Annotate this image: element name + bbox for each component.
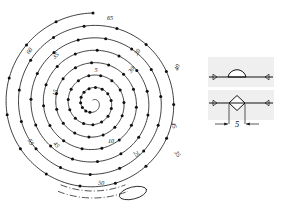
spiral-point-marker xyxy=(150,68,153,71)
spiral-point-marker xyxy=(79,101,82,104)
spiral-point-marker xyxy=(96,160,99,163)
spiral-point-marker xyxy=(88,87,91,90)
spiral-point-marker xyxy=(48,124,51,127)
spiral-point-marker xyxy=(144,165,147,168)
zone-label: 20 xyxy=(132,47,142,57)
spiral-point-marker xyxy=(88,111,91,114)
spiral-point-marker xyxy=(137,136,140,139)
spiral-point-marker xyxy=(45,83,48,86)
spiral-point-marker xyxy=(110,99,113,102)
spiral-point-marker xyxy=(100,120,103,123)
spiral-point-marker xyxy=(130,124,133,127)
zone-label: 50 xyxy=(98,179,106,186)
spiral-point-marker xyxy=(119,89,122,92)
spiral-point-marker xyxy=(6,113,9,116)
spiral-point-marker xyxy=(165,70,168,73)
spiral-point-marker xyxy=(29,98,32,101)
spiral-point-marker xyxy=(146,90,149,93)
zone-label: 10 xyxy=(108,137,115,144)
bottom-dashdot-arc xyxy=(61,185,126,191)
bottom-dashdot-arc xyxy=(58,191,128,198)
spiral-point-marker xyxy=(121,114,124,117)
spiral-point-marker xyxy=(90,61,93,64)
spiral-point-marker xyxy=(118,167,121,170)
spiral-point-marker xyxy=(45,172,48,175)
spiral-point-marker xyxy=(89,173,92,176)
spiral-point-marker xyxy=(146,114,149,117)
zone-label: 30 xyxy=(126,64,136,75)
spiral-point-marker xyxy=(78,185,81,188)
spiral-point-marker xyxy=(165,137,168,140)
spiral-point-marker xyxy=(71,158,74,161)
spiral-point-marker xyxy=(42,104,45,107)
zone-label: 65 xyxy=(107,14,113,21)
spiral-point-marker xyxy=(73,132,76,135)
spiral-point-marker xyxy=(92,12,95,15)
spiral-point-marker xyxy=(83,25,86,28)
spiral-point-marker xyxy=(135,106,138,109)
zone-label: 55 xyxy=(27,137,36,146)
spiral-point-marker xyxy=(35,147,38,150)
spiral-point-marker xyxy=(29,59,32,62)
spiral-point-marker xyxy=(159,95,162,98)
spiral-point-marker xyxy=(132,88,135,91)
spiral-point-marker xyxy=(18,88,21,91)
spiral-point-marker xyxy=(113,126,116,129)
spiral-point-marker xyxy=(87,136,90,139)
zone-label: 5 xyxy=(94,66,97,73)
spiral-point-marker xyxy=(107,115,110,118)
zone-label: 35 xyxy=(173,148,183,158)
spiral-point-marker xyxy=(77,79,80,82)
spiral-point-marker xyxy=(34,124,37,127)
spiral-point-marker xyxy=(81,106,84,109)
spiral-point-marker xyxy=(8,76,11,79)
spiral-point-marker xyxy=(83,91,86,94)
spiral-point-marker xyxy=(114,182,117,185)
spiral-point-marker xyxy=(99,74,102,77)
spiral-point-marker xyxy=(20,120,23,123)
spiral-point-marker xyxy=(96,49,99,52)
spiral-point-marker xyxy=(62,122,65,125)
spiral-point-marker xyxy=(118,55,121,58)
spiral-point-marker xyxy=(82,122,85,125)
spiral-point-marker xyxy=(110,79,113,82)
zone-label: 45 xyxy=(170,121,179,129)
spiral-point-marker xyxy=(62,139,65,142)
spiral-point-marker xyxy=(100,147,103,150)
spiral-point-marker xyxy=(49,145,52,148)
spiral-point-marker xyxy=(104,37,107,40)
spiral-point-marker xyxy=(55,108,58,111)
spiral-point-marker xyxy=(36,72,39,75)
zone-label: 60 xyxy=(24,45,34,55)
spiral-point-marker xyxy=(52,36,55,39)
spiral-point-marker xyxy=(135,69,138,72)
spiral-point-marker xyxy=(119,152,122,155)
technical-drawing-figure: 51015202530354045505560654535 5 xyxy=(0,0,281,216)
spiral-point-marker xyxy=(70,88,73,91)
spiral-point-marker xyxy=(94,86,97,89)
inset-panel-dome xyxy=(208,57,274,87)
spiral-point-marker xyxy=(74,53,77,56)
spiral-point-marker xyxy=(106,92,109,95)
spiral-point-marker xyxy=(122,101,125,104)
spiral-point-marker xyxy=(19,147,22,150)
spiral-point-marker xyxy=(62,77,65,80)
inset-panel-diamond: 5 xyxy=(208,90,274,129)
spiral-point-marker xyxy=(68,108,71,111)
spiral-point-marker xyxy=(74,117,77,120)
spiral-point-marker xyxy=(172,103,175,106)
zone-label: 35 xyxy=(50,51,60,61)
spiral-point-marker xyxy=(81,147,84,150)
zone-label: 40 xyxy=(172,62,181,71)
zone-label: 45 xyxy=(52,140,61,149)
spiral-point-marker xyxy=(122,73,125,76)
spiral-point-marker xyxy=(118,138,121,141)
spiral-point-marker xyxy=(115,27,118,30)
spiral-point-marker xyxy=(56,65,59,68)
spiral-point-marker xyxy=(80,96,83,99)
dimension-value-label: 5 xyxy=(235,120,239,129)
spiral-point-marker xyxy=(142,149,145,152)
spiral-point-marker xyxy=(59,166,62,169)
spiral-point-marker xyxy=(77,39,80,42)
drawing-canvas: 51015202530354045505560654535 5 xyxy=(0,0,281,216)
